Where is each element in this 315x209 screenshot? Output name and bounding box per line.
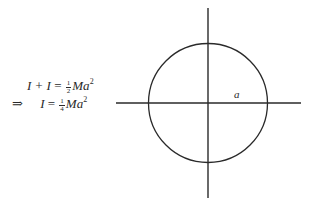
circle-figure [0, 0, 315, 209]
radius-label: a [234, 88, 240, 100]
